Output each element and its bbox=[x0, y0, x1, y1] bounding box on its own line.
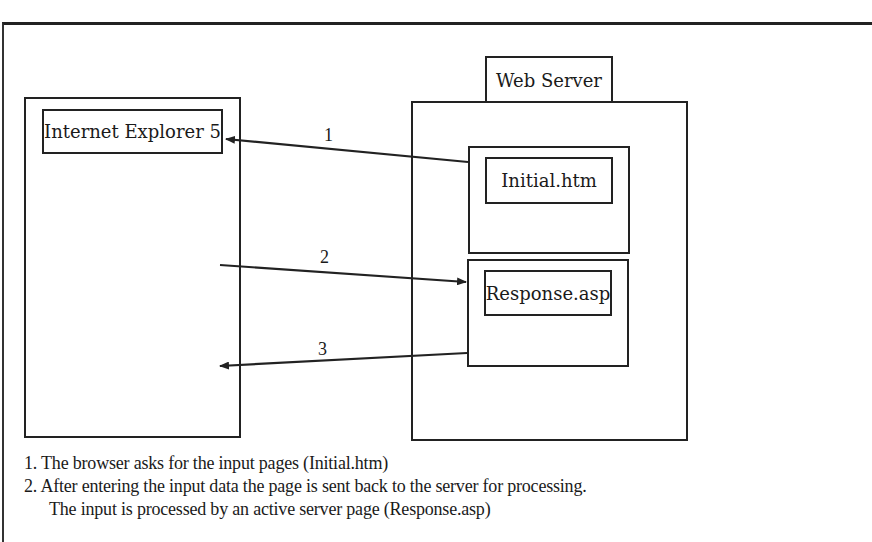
arrow-3-label: 3 bbox=[318, 339, 327, 360]
arrow-2 bbox=[220, 265, 466, 282]
arrow-1-label: 1 bbox=[324, 125, 333, 146]
arrow-1 bbox=[226, 139, 468, 162]
note-1: 1. The browser asks for the input pages … bbox=[24, 452, 587, 475]
arrow-3 bbox=[220, 353, 467, 366]
note-2: 2. After entering the input data the pag… bbox=[24, 475, 587, 498]
notes-list: 1. The browser asks for the input pages … bbox=[24, 452, 587, 521]
note-2-continued: The input is processed by an active serv… bbox=[24, 498, 587, 521]
arrow-2-label: 2 bbox=[320, 247, 329, 268]
